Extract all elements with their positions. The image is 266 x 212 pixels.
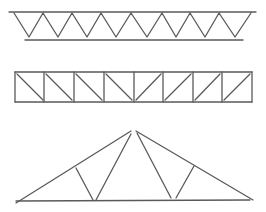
- bottom-chord: [16, 200, 250, 201]
- web-member: [76, 168, 93, 200]
- diagonal-member: [224, 74, 250, 100]
- diagonal-member: [136, 74, 161, 100]
- diagonal-member: [195, 74, 220, 100]
- web-member: [176, 166, 194, 198]
- diagonal-member: [106, 74, 132, 100]
- pratt-truss: [15, 72, 252, 102]
- truss-diagram: [0, 0, 266, 212]
- diagonal-member: [46, 74, 72, 100]
- warren-truss: [9, 12, 256, 40]
- zigzag-web: [14, 13, 251, 37]
- diagonal-member: [76, 74, 102, 100]
- fink-truss: [16, 131, 253, 203]
- diagonal-member: [17, 74, 43, 100]
- diagonal-member: [165, 74, 191, 100]
- web-member: [96, 134, 131, 200]
- web-member: [137, 133, 171, 198]
